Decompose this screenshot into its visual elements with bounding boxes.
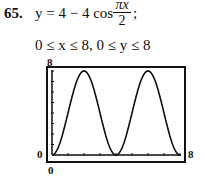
graph — [0, 0, 205, 187]
tick-marks — [51, 71, 180, 156]
axes — [52, 70, 181, 155]
function-curve — [52, 71, 180, 155]
